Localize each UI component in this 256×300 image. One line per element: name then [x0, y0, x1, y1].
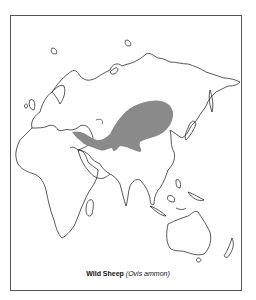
australia-coastline [167, 211, 211, 254]
caption-scientific-name: (Ovis ammon) [126, 270, 170, 277]
caption-common-name: Wild Sheep [86, 270, 124, 277]
map-caption: Wild Sheep (Ovis ammon) [0, 270, 256, 277]
world-map [0, 0, 256, 300]
